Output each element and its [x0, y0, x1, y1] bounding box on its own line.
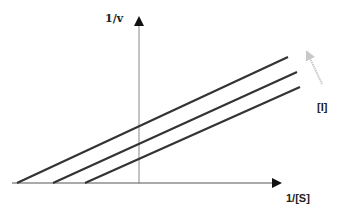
inhibitor-label: [I] — [317, 101, 328, 113]
plot-line-high-inhibitor — [17, 57, 288, 183]
plot-line-medium-inhibitor — [53, 72, 297, 183]
x-axis-label: 1/[S] — [286, 192, 310, 204]
inhibitor-increase-arrow — [307, 52, 322, 84]
y-axis-label: 1/v — [105, 12, 124, 25]
lineweaver-burk-diagram: 1/v 1/[S] [I] — [0, 0, 340, 215]
